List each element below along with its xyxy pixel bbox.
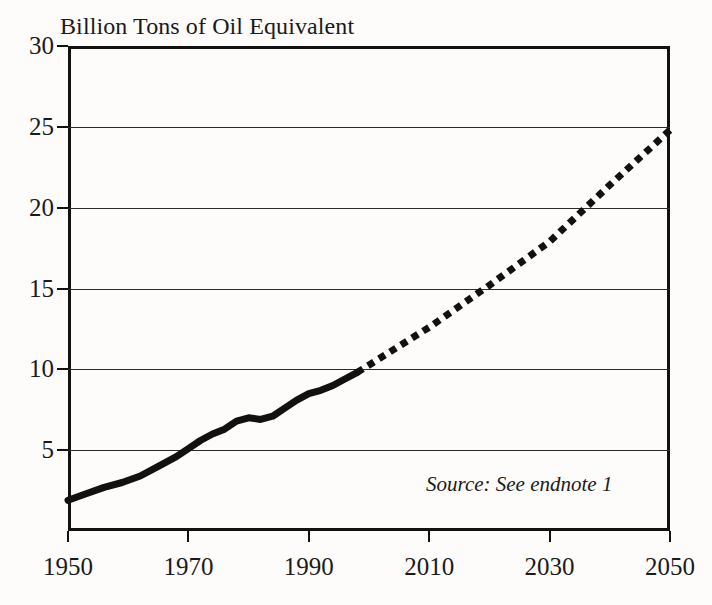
y-axis-tick (57, 368, 68, 370)
x-axis-tick (308, 531, 310, 542)
y-axis-tick-label: 20 (29, 194, 54, 222)
source-annotation: Source: See endnote 1 (426, 472, 612, 497)
y-axis-tick (57, 449, 68, 451)
y-axis-tick (57, 45, 68, 47)
y-axis-tick-label: 15 (29, 275, 54, 303)
x-axis-tick-label: 2030 (525, 553, 575, 581)
x-axis-tick (549, 531, 551, 542)
x-axis-tick-label: 1990 (284, 553, 334, 581)
x-axis-tick-label: 2010 (404, 553, 454, 581)
series-line-historical (68, 373, 357, 501)
y-axis-tick (57, 126, 68, 128)
plot-area: 51015202530 195019701990201020302050 (68, 46, 670, 531)
x-axis-tick (669, 531, 671, 542)
y-axis-tick-label: 5 (42, 436, 55, 464)
x-axis-tick (428, 531, 430, 542)
y-axis-tick-label: 25 (29, 113, 54, 141)
y-axis-tick-label: 30 (29, 32, 54, 60)
y-axis-tick-label: 10 (29, 355, 54, 383)
x-axis-tick (67, 531, 69, 542)
x-axis-tick-label: 1970 (163, 553, 213, 581)
y-axis-tick (57, 207, 68, 209)
chart-page: Billion Tons of Oil Equivalent 510152025… (0, 0, 712, 605)
x-axis-tick-label: 1950 (43, 553, 93, 581)
data-series-layer (68, 46, 670, 531)
y-axis-tick (57, 288, 68, 290)
x-axis-tick (187, 531, 189, 542)
x-axis-tick-label: 2050 (645, 553, 695, 581)
series-line-projected (357, 130, 670, 373)
page-title: Billion Tons of Oil Equivalent (60, 12, 354, 40)
